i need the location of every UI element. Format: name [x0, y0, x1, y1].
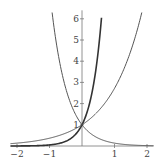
- curve-0: [52, 13, 153, 146]
- y-tick-label: 3: [73, 77, 79, 87]
- x-tick-label: −1: [43, 149, 56, 159]
- x-tick-label: 2: [144, 149, 150, 159]
- tick-labels: −2−112123456: [10, 14, 150, 159]
- y-tick-label: 5: [73, 35, 79, 45]
- y-tick-label: 1: [73, 120, 79, 130]
- axes: [11, 10, 154, 148]
- x-tick-label: −2: [10, 149, 23, 159]
- curve-1: [11, 18, 102, 146]
- y-tick-label: 6: [73, 14, 79, 24]
- y-tick-label: 2: [73, 99, 79, 109]
- exponential-chart: −2−112123456: [0, 0, 160, 166]
- y-tick-label: 4: [73, 56, 79, 66]
- x-tick-label: 1: [112, 149, 118, 159]
